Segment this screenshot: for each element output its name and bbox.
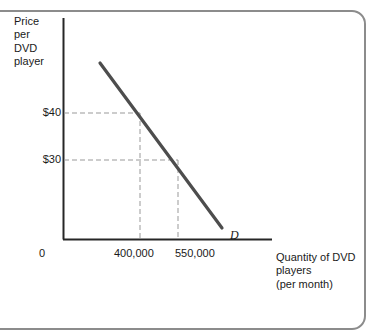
y-axis-title: Price per DVD player bbox=[14, 15, 44, 69]
x-axis-title: Quantity of DVD players (per month) bbox=[276, 251, 355, 291]
y-tick-label-30: $30 bbox=[43, 153, 61, 165]
y-tick-label-40: $40 bbox=[43, 106, 61, 118]
origin-label: 0 bbox=[39, 247, 45, 259]
x-tick-label-400000: 400,000 bbox=[114, 247, 154, 259]
demand-curve-line bbox=[100, 63, 222, 228]
demand-curve-label: D bbox=[230, 228, 239, 243]
x-tick-label-550000: 550,000 bbox=[175, 247, 215, 259]
